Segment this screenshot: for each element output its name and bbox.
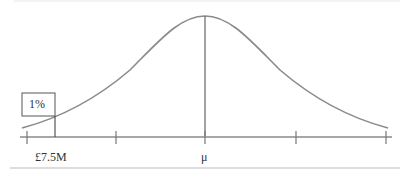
tail-percent-label: 1% [29, 97, 45, 112]
mean-label: μ [201, 150, 207, 165]
normal-distribution-chart [0, 0, 413, 174]
threshold-label: £7.5M [35, 150, 67, 165]
